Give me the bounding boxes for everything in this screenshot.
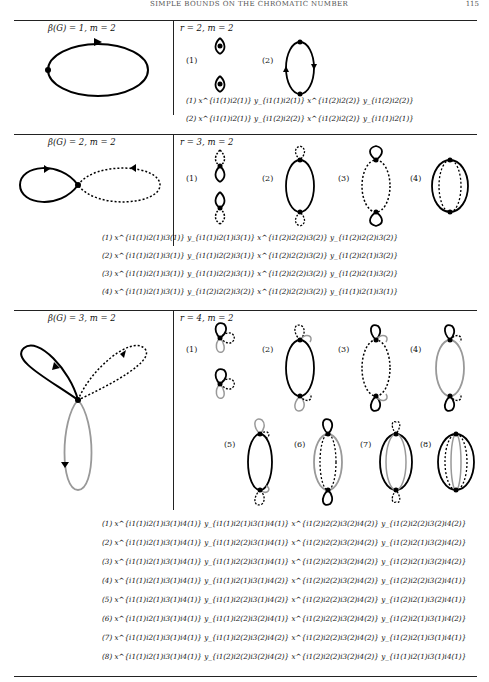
row2-diagram-4 bbox=[428, 156, 472, 216]
row2-diagram-label-2: (2) bbox=[262, 174, 273, 183]
row2-diagram-3 bbox=[356, 146, 396, 226]
running-title: SIMPLE BOUNDS ON THE CHROMATIC NUMBER bbox=[150, 0, 348, 8]
row3-formula-5: (5) x^{i1(1)i2(1)i3(1)i4(1)} y_{i1(1)i2(… bbox=[102, 596, 466, 603]
row3-diagram-label-8: (8) bbox=[420, 440, 431, 449]
row1-diagram-label-1: (1) bbox=[186, 56, 197, 65]
row3-formula-8: (8) x^{i1(1)i2(1)i3(1)i4(1)} y_{i1(2)i2(… bbox=[102, 653, 466, 660]
row1-formula-1: (1) x^{i1(1)i2(1)} y_{i1(1)i2(1)} x^{i1(… bbox=[186, 97, 414, 104]
row3-diagram-label-7: (7) bbox=[360, 440, 371, 449]
row2-diagram-label-3: (3) bbox=[338, 174, 349, 183]
row3-formula-2: (2) x^{i1(1)i2(1)i3(1)i4(1)} y_{i1(1)i2(… bbox=[102, 539, 466, 546]
table-top-rule bbox=[14, 20, 477, 21]
row3-left-label: β(G) = 3, m = 2 bbox=[48, 313, 116, 323]
column-divider-2 bbox=[173, 134, 174, 246]
row3-formula-3: (3) x^{i1(1)i2(1)i3(1)i4(1)} y_{i1(1)i2(… bbox=[102, 558, 466, 565]
row3-diagram-7 bbox=[374, 420, 418, 504]
row3-diagram-label-4: (4) bbox=[410, 345, 421, 354]
row3-diagram-label-3: (3) bbox=[338, 345, 349, 354]
table-bottom-rule bbox=[14, 676, 477, 677]
row2-diagram-1 bbox=[214, 146, 238, 226]
row3-diagram-label-1: (1) bbox=[186, 345, 197, 354]
column-divider-3 bbox=[173, 310, 174, 510]
row3-graph-three-loops bbox=[20, 340, 160, 500]
row3-diagram-label-5: (5) bbox=[224, 440, 235, 449]
row1-graph-single-loop bbox=[44, 40, 154, 100]
row2-formula-1: (1) x^{i1(1)i2(1)i3(1)} y_{i1(1)i2(1)i3(… bbox=[102, 234, 398, 241]
row1-left-label: β(G) = 1, m = 2 bbox=[48, 23, 116, 33]
row1-formula-2: (2) x^{i1(1)i2(1)} y_{i1(2)i2(2)} x^{i1(… bbox=[186, 115, 414, 122]
row3-formula-1: (1) x^{i1(1)i2(1)i3(1)i4(1)} y_{i1(1)i2(… bbox=[102, 520, 466, 527]
row1-diagram-2 bbox=[280, 36, 320, 100]
row3-formula-4: (4) x^{i1(1)i2(1)i3(1)i4(1)} y_{i1(1)i2(… bbox=[102, 577, 466, 584]
row3-diagram-label-2: (2) bbox=[262, 345, 273, 354]
row3-diagram-5 bbox=[238, 412, 282, 512]
column-divider-1 bbox=[173, 20, 174, 115]
row1-diagram-1 bbox=[214, 32, 238, 102]
row2-graph-two-loops bbox=[20, 160, 170, 210]
row3-formula-6: (6) x^{i1(1)i2(1)i3(1)i4(1)} y_{i1(1)i2(… bbox=[102, 615, 466, 622]
row2-formula-3: (3) x^{i1(1)i2(1)i3(1)} y_{i1(1)i2(2)i3(… bbox=[102, 270, 398, 277]
row-divider-1 bbox=[14, 134, 477, 135]
page-number: 115 bbox=[466, 0, 479, 8]
row3-diagram-4 bbox=[428, 318, 472, 418]
row3-formula-7: (7) x^{i1(1)i2(1)i3(1)i4(1)} y_{i1(1)i2(… bbox=[102, 634, 466, 641]
row2-diagram-2 bbox=[280, 146, 320, 226]
row3-diagram-3 bbox=[354, 318, 398, 418]
row1-diagram-label-2: (2) bbox=[262, 56, 273, 65]
row3-diagram-2 bbox=[278, 318, 322, 418]
row2-formula-2: (2) x^{i1(1)i2(1)i3(1)} y_{i1(1)i2(2)i3(… bbox=[102, 252, 398, 259]
row2-formula-4: (4) x^{i1(1)i2(1)i3(1)} y_{i1(2)i2(2)i3(… bbox=[102, 288, 398, 295]
row3-diagram-label-6: (6) bbox=[294, 440, 305, 449]
row2-left-label: β(G) = 2, m = 2 bbox=[48, 137, 116, 147]
row3-diagram-8 bbox=[434, 424, 478, 500]
row2-diagram-label-1: (1) bbox=[186, 174, 197, 183]
row3-diagram-6 bbox=[306, 412, 350, 512]
row-divider-2 bbox=[14, 310, 477, 311]
row3-diagram-1 bbox=[206, 320, 246, 410]
row2-diagram-label-4: (4) bbox=[410, 174, 421, 183]
running-header: SIMPLE BOUNDS ON THE CHROMATIC NUMBER 11… bbox=[0, 0, 489, 12]
